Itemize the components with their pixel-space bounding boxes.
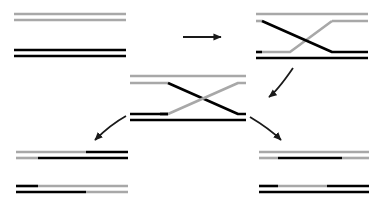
panel-holliday-junction	[130, 76, 246, 120]
patched-duplex-lower-left	[16, 186, 128, 192]
panel-lower-left-products	[16, 152, 128, 192]
black-parent-duplex	[14, 50, 126, 56]
hj-gray-crossing-strand	[160, 83, 246, 114]
spliced-duplex-lower-right	[259, 186, 369, 192]
curved-arrow-down-right-path	[269, 68, 293, 97]
curved-arrow-down-right	[269, 68, 293, 97]
spliced-duplex-upper-right	[259, 152, 369, 158]
panel-lower-right-products	[259, 152, 369, 192]
gray-parent-duplex	[14, 14, 126, 20]
curved-arrow-to-lower-right	[250, 117, 281, 140]
recombination-figure: DNA strand exchange / Holliday junction …	[0, 0, 377, 211]
patched-duplex-upper-left	[16, 152, 128, 158]
curved-arrow-down-left	[95, 116, 126, 140]
curved-arrow-down-left-path	[95, 116, 126, 140]
curved-arrow-to-lower-right-path	[250, 117, 281, 140]
panel-upper-right-crossover	[256, 14, 368, 58]
panel-parental-duplexes	[14, 14, 126, 56]
figure-canvas	[0, 0, 377, 211]
ur-black-crossing-strand	[262, 21, 368, 52]
